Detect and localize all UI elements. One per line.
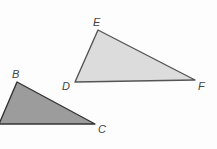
- triangle-def: [75, 30, 195, 82]
- triangle-abc: [0, 82, 95, 124]
- diagram-canvas: [0, 0, 217, 149]
- vertex-label-c: C: [98, 124, 106, 135]
- vertex-label-b: B: [12, 69, 19, 80]
- vertex-label-e: E: [93, 17, 100, 28]
- vertex-label-f: F: [198, 81, 205, 92]
- triangle-diagram: E D F B C: [0, 0, 217, 149]
- vertex-label-d: D: [62, 81, 70, 92]
